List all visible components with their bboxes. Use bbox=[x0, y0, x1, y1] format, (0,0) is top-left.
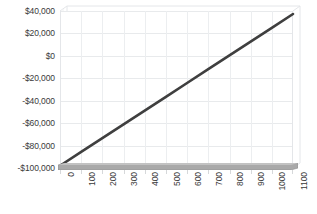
x-tick-label: 600 bbox=[194, 172, 203, 186]
x-tick-label: 300 bbox=[130, 172, 139, 186]
chart-container: $40,000 $20,000 $0 -$20,000 -$40,000 -$6… bbox=[0, 0, 317, 214]
x-tick-label: 500 bbox=[173, 172, 182, 186]
y-tick-label: $40,000 bbox=[0, 7, 55, 16]
y-tick-label: $20,000 bbox=[0, 29, 55, 38]
x-tick-label: 200 bbox=[109, 172, 118, 186]
y-axis: $40,000 $20,000 $0 -$20,000 -$40,000 -$6… bbox=[0, 0, 58, 214]
x-tick-label: 800 bbox=[236, 172, 245, 186]
y-tick-label: -$80,000 bbox=[0, 141, 55, 150]
x-tick-label: 0 bbox=[67, 172, 76, 177]
y-tick-label: -$100,000 bbox=[0, 164, 55, 173]
x-axis: 0 100 200 300 400 500 600 700 800 900 10… bbox=[60, 172, 293, 214]
series-line-cumulative bbox=[60, 11, 293, 168]
x-tick-label: 700 bbox=[215, 172, 224, 186]
x-tick-label: 1100 bbox=[300, 172, 309, 190]
y-tick-label: -$40,000 bbox=[0, 96, 55, 105]
y-tick-label: -$60,000 bbox=[0, 119, 55, 128]
x-tick-label: 900 bbox=[257, 172, 266, 186]
x-tick-label: 400 bbox=[151, 172, 160, 186]
chart-floor-slab bbox=[58, 163, 298, 170]
plot-area bbox=[60, 11, 293, 168]
y-tick-label: $0 bbox=[0, 51, 55, 60]
x-tick-label: 100 bbox=[88, 172, 97, 186]
x-tick-label: 1000 bbox=[278, 172, 287, 191]
y-tick-label: -$20,000 bbox=[0, 74, 55, 83]
